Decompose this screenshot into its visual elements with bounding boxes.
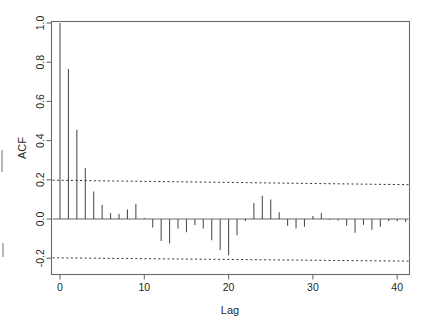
x-tick-label: 0 <box>57 281 63 293</box>
x-tick-label: 40 <box>391 281 403 293</box>
acf-figure: 1.00.80.60.40.20.0-0.2 010203040 ACF Lag <box>0 0 435 325</box>
confidence-band-upper <box>53 180 409 185</box>
x-tick-label: 20 <box>223 281 235 293</box>
y-axis-ticks <box>47 23 52 258</box>
x-tick-label: 10 <box>138 281 150 293</box>
y-axis-title: ACF <box>16 137 28 159</box>
y-tick-label: -0.2 <box>34 249 46 267</box>
x-axis-title: Lag <box>221 304 239 316</box>
y-tick-label: 0.4 <box>34 133 46 148</box>
page-edge-artifact-bottom <box>2 243 4 257</box>
y-axis-tick-labels: 1.00.80.60.40.20.0-0.2 <box>34 16 46 268</box>
y-tick-label: 0.2 <box>34 172 46 187</box>
y-tick-label: 1.0 <box>34 16 46 31</box>
x-axis-ticks <box>60 275 397 280</box>
page-edge-artifact-top <box>1 150 3 172</box>
x-tick-label: 30 <box>307 281 319 293</box>
plot-panel-border <box>52 22 410 275</box>
confidence-band-lower <box>53 258 409 261</box>
acf-spikes <box>60 23 406 255</box>
y-tick-label: 0.8 <box>34 55 46 70</box>
acf-plot-canvas: 1.00.80.60.40.20.0-0.2 010203040 ACF Lag <box>0 0 435 325</box>
y-tick-label: 0.6 <box>34 94 46 109</box>
x-axis-tick-labels: 010203040 <box>57 281 403 293</box>
y-tick-label: 0.0 <box>34 212 46 227</box>
